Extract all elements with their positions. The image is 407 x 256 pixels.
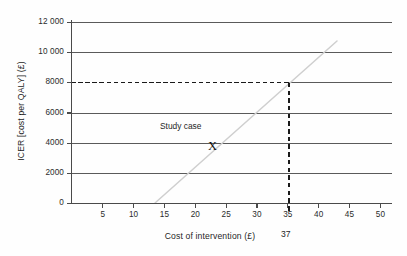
study-case-marker-icon: X xyxy=(206,139,219,153)
x-axis-ticks xyxy=(103,204,381,208)
gridlines xyxy=(71,23,392,174)
x-tick-label-35: 35 xyxy=(276,210,300,219)
x-tick-label-45: 45 xyxy=(338,210,362,219)
x-tick-label-50: 50 xyxy=(368,210,392,219)
x-axis-title: Cost of intervention (£) xyxy=(130,231,290,241)
y-axis-title: ICER [cost per QALY] (£) xyxy=(16,47,26,175)
threshold-cost-label: 37 xyxy=(281,229,291,239)
x-tick-label-15: 15 xyxy=(153,210,177,219)
y-tick-label-12000: 12 000 xyxy=(16,17,64,26)
y-axis-ticks xyxy=(67,23,71,204)
x-tick-label-10: 10 xyxy=(122,210,146,219)
x-tick-label-30: 30 xyxy=(245,210,269,219)
x-tick-label-25: 25 xyxy=(214,210,238,219)
x-tick-label-20: 20 xyxy=(183,210,207,219)
x-tick-label-5: 5 xyxy=(91,210,115,219)
y-tick-label-0: 0 xyxy=(16,198,64,207)
chart-figure: 12 000 10 000 8000 6000 4000 2000 0 5 10… xyxy=(0,0,407,256)
study-case-label: Study case xyxy=(160,121,201,131)
x-tick-label-40: 40 xyxy=(307,210,331,219)
